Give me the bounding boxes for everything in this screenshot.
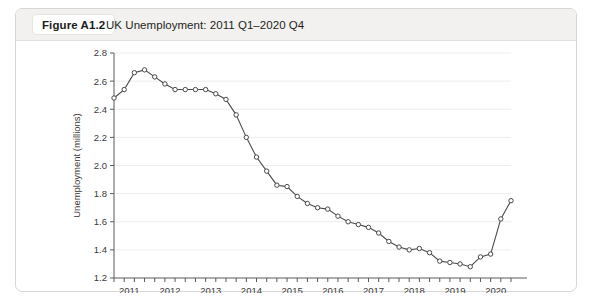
x-tick-label: 2014 <box>241 285 262 293</box>
data-point <box>387 239 391 243</box>
y-tick-label: 2.0 <box>94 160 107 171</box>
y-tick-label: 2.8 <box>94 47 107 58</box>
data-point <box>509 198 513 202</box>
y-tick-label: 1.2 <box>94 272 107 283</box>
x-tick-label: 2013 <box>200 285 221 293</box>
data-point <box>295 194 299 198</box>
data-point <box>336 214 340 218</box>
x-tick-label: 2015 <box>282 285 303 293</box>
data-point <box>478 255 482 259</box>
x-tick-label: 2019 <box>444 285 465 293</box>
data-point <box>142 68 146 72</box>
x-tick-label: 2017 <box>363 285 384 293</box>
data-point <box>376 231 380 235</box>
data-point <box>417 246 421 250</box>
data-point <box>275 183 279 187</box>
x-tick-label: 2011 <box>119 285 139 293</box>
data-point <box>173 87 177 91</box>
y-tick-label: 1.4 <box>94 244 107 255</box>
figure-header: Figure A1.2 UK Unemployment: 2011 Q1–202… <box>16 9 576 41</box>
data-point <box>163 82 167 86</box>
unemployment-line-chart: 1.21.41.61.82.02.22.42.62.82011201220132… <box>16 41 578 293</box>
data-point <box>346 220 350 224</box>
data-point <box>326 207 330 211</box>
data-point <box>193 87 197 91</box>
data-point <box>407 248 411 252</box>
figure-title: UK Unemployment: 2011 Q1–2020 Q4 <box>106 15 304 34</box>
data-point <box>183 87 187 91</box>
data-point <box>122 87 126 91</box>
y-tick-label: 2.6 <box>94 76 107 87</box>
data-point <box>438 259 442 263</box>
y-tick-label: 1.6 <box>94 216 107 227</box>
data-point <box>203 87 207 91</box>
data-point <box>468 265 472 269</box>
data-point <box>356 222 360 226</box>
figure-card: Figure A1.2 UK Unemployment: 2011 Q1–202… <box>15 8 577 292</box>
figure-number-badge: Figure A1.2 <box>33 15 114 34</box>
data-point <box>427 250 431 254</box>
data-point <box>285 184 289 188</box>
chart-plot-area: 1.21.41.61.82.02.22.42.62.82011201220132… <box>16 41 576 293</box>
data-point <box>305 201 309 205</box>
data-point <box>499 217 503 221</box>
data-point <box>397 245 401 249</box>
series-line <box>114 70 511 267</box>
data-point <box>234 113 238 117</box>
data-point <box>458 262 462 266</box>
x-tick-label: 2018 <box>404 285 425 293</box>
data-point <box>112 96 116 100</box>
data-point <box>132 70 136 74</box>
data-point <box>264 169 268 173</box>
data-point <box>448 260 452 264</box>
data-point <box>488 252 492 256</box>
data-point <box>244 135 248 139</box>
y-axis-title: Unemployment (millions) <box>71 113 82 218</box>
data-point <box>366 225 370 229</box>
x-tick-label: 2016 <box>322 285 343 293</box>
y-tick-label: 2.4 <box>94 104 107 115</box>
data-point <box>254 155 258 159</box>
data-point <box>153 75 157 79</box>
y-tick-label: 1.8 <box>94 188 107 199</box>
data-point <box>315 205 319 209</box>
data-point <box>224 97 228 101</box>
data-point <box>214 92 218 96</box>
x-tick-label: 2020 <box>485 285 506 293</box>
y-tick-label: 2.2 <box>94 132 107 143</box>
x-tick-label: 2012 <box>159 285 180 293</box>
